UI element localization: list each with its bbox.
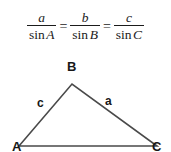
triangle-shape (19, 84, 157, 146)
fraction-b-over-sin-b: b sinB (70, 11, 100, 42)
fraction-a-over-sin-a: a sinA (27, 11, 57, 42)
angle-variable-c: C (133, 27, 142, 42)
triangle-svg (0, 55, 171, 152)
side-label-c: c (37, 97, 44, 109)
angle-variable-b: B (90, 27, 98, 42)
angle-variable-a: A (46, 27, 54, 42)
denominator-sin-c: sinC (114, 26, 144, 42)
equals-sign-1: = (56, 19, 70, 35)
vertex-label-c: C (152, 140, 161, 152)
denominator-sin-b: sinB (70, 26, 100, 42)
numerator-b: b (78, 11, 93, 26)
sin-function-name: sin (116, 27, 132, 42)
fraction-c-over-sin-c: c sinC (114, 11, 144, 42)
sin-function-name: sin (72, 27, 88, 42)
vertex-label-b: B (67, 60, 76, 73)
equals-sign-2: = (100, 19, 114, 35)
law-of-sines-formula: a sinA = b sinB = c sinC (0, 2, 171, 50)
denominator-sin-a: sinA (27, 26, 57, 42)
side-label-a: a (105, 95, 112, 107)
numerator-c: c (122, 11, 136, 26)
vertex-label-a: A (12, 140, 21, 152)
triangle-diagram: B A C c a (0, 55, 171, 152)
law-of-sines-figure: a sinA = b sinB = c sinC B A C c a (0, 0, 171, 152)
numerator-a: a (34, 11, 49, 26)
sin-function-name: sin (29, 27, 45, 42)
